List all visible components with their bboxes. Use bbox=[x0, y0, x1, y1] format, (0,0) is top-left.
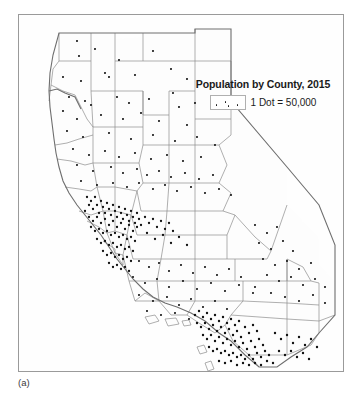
figure-frame: Population by County, 2015 1 Dot = 50,00… bbox=[18, 14, 344, 372]
channel-islands bbox=[145, 315, 214, 371]
figure-caption: (a) bbox=[18, 377, 30, 388]
county-fill-layer bbox=[49, 29, 335, 367]
california-map bbox=[19, 15, 345, 373]
